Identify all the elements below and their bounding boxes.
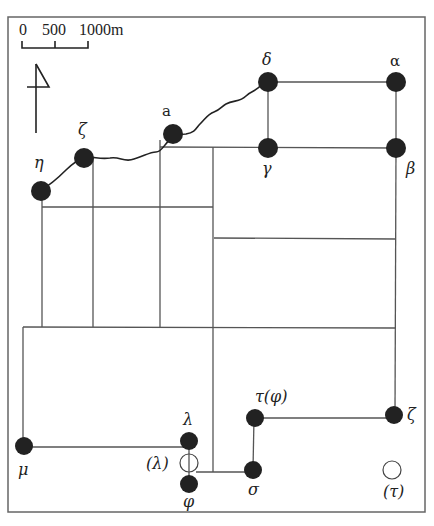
label-mu: μ bbox=[18, 460, 28, 479]
node-gamma[interactable] bbox=[258, 138, 278, 158]
node-zeta-top[interactable] bbox=[74, 148, 94, 168]
scale-label-500: 500 bbox=[42, 21, 66, 38]
north-arrow-icon bbox=[27, 64, 49, 133]
node-sigma[interactable] bbox=[244, 461, 262, 479]
label-eta: η bbox=[34, 153, 44, 172]
label-alpha: α bbox=[390, 52, 400, 70]
node-a[interactable] bbox=[163, 124, 183, 144]
scale-label-0: 0 bbox=[19, 21, 27, 38]
label-lambda: λ bbox=[182, 410, 193, 429]
label-zeta-top: ζ bbox=[78, 120, 88, 139]
label-delta: δ bbox=[262, 50, 272, 69]
nodes bbox=[15, 72, 406, 493]
node-delta[interactable] bbox=[258, 72, 278, 92]
label-gamma: γ bbox=[262, 159, 272, 178]
label-beta: β bbox=[405, 159, 415, 178]
node-zeta-right[interactable] bbox=[385, 406, 403, 424]
label-a: a bbox=[162, 102, 171, 120]
scale-bar: 0 500 1000m bbox=[19, 21, 124, 48]
label-tau-alt: (τ) bbox=[383, 482, 404, 501]
node-alpha[interactable] bbox=[386, 72, 406, 92]
node-tau-alt[interactable] bbox=[383, 461, 401, 479]
node-tau[interactable] bbox=[246, 409, 264, 427]
node-mu[interactable] bbox=[15, 437, 33, 455]
node-labels: α β γ δ a ζ η μ λ (λ) φ σ τ(φ) ζ (τ) bbox=[18, 50, 417, 511]
label-tau: τ(φ) bbox=[255, 387, 288, 406]
road-network bbox=[23, 82, 396, 483]
winding-road bbox=[41, 84, 262, 190]
node-beta[interactable] bbox=[386, 138, 406, 158]
map-frame bbox=[8, 17, 425, 512]
node-phi[interactable] bbox=[180, 475, 198, 493]
node-lambda[interactable] bbox=[180, 432, 198, 450]
label-lambda-alt: (λ) bbox=[146, 454, 169, 473]
node-eta[interactable] bbox=[31, 181, 51, 201]
label-zeta-right: ζ bbox=[407, 405, 417, 424]
site-map-diagram: 0 500 1000m bbox=[0, 0, 434, 526]
label-phi: φ bbox=[183, 492, 195, 511]
scale-label-1000m: 1000m bbox=[79, 21, 124, 38]
label-sigma: σ bbox=[248, 480, 260, 499]
